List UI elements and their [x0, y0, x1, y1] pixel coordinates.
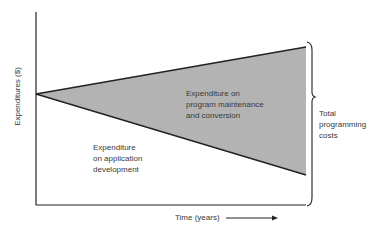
development-label: Expenditure on application development [93, 142, 142, 175]
development-label-line: development [93, 164, 142, 175]
total-costs-label-line: costs [319, 130, 366, 141]
time-arrow-head [272, 216, 278, 221]
total-costs-label-line: Total [319, 108, 366, 119]
y-axis-label: Expenditures ($) [13, 62, 22, 132]
maintenance-region [36, 47, 306, 175]
total-costs-brace [307, 42, 315, 206]
maintenance-label-line: and conversion [186, 110, 264, 121]
maintenance-label: Expenditure on program maintenance and c… [186, 88, 264, 121]
total-costs-label-line: programming [319, 119, 366, 130]
development-label-line: on application [93, 153, 142, 164]
maintenance-label-line: program maintenance [186, 99, 264, 110]
development-label-line: Expenditure [93, 142, 142, 153]
total-costs-label: Total programming costs [319, 108, 366, 141]
x-axis-label: Time (years) [175, 212, 220, 223]
maintenance-label-line: Expenditure on [186, 88, 264, 99]
